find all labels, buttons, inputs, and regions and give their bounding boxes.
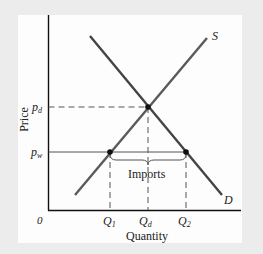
supply-label: S (212, 30, 218, 42)
qd-label: Qd (139, 215, 152, 229)
pd-label: pd (32, 101, 42, 115)
x-axis-label: Quantity (126, 230, 168, 242)
q1-point (107, 149, 113, 155)
imports-label: Imports (128, 168, 165, 180)
q2-point (183, 149, 189, 155)
origin-label: 0 (37, 215, 43, 226)
q2-label: Q2 (178, 215, 191, 229)
pw-label: pw (31, 146, 42, 160)
y-axis-label: Price (17, 100, 32, 140)
equilibrium-point (145, 104, 151, 110)
q1-label: Q1 (103, 215, 116, 229)
demand-label: D (224, 194, 233, 206)
